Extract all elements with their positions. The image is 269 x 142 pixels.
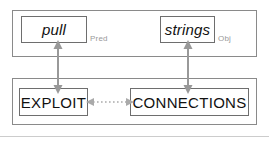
- term-box-strings[interactable]: strings: [160, 16, 215, 43]
- role-label-pred: Pred: [90, 34, 108, 43]
- term-label-pull: pull: [42, 21, 66, 38]
- term-box-pull[interactable]: pull: [21, 16, 87, 43]
- diagram-canvas: pull Pred strings Obj EXPLOIT CONNECTION…: [0, 0, 269, 142]
- term-box-connections[interactable]: CONNECTIONS: [130, 88, 249, 116]
- term-label-exploit: EXPLOIT: [21, 94, 86, 111]
- term-label-strings: strings: [165, 21, 211, 38]
- role-label-obj: Obj: [218, 34, 231, 43]
- term-box-exploit[interactable]: EXPLOIT: [19, 88, 88, 116]
- term-label-connections: CONNECTIONS: [132, 94, 246, 111]
- bottom-divider: [0, 136, 269, 137]
